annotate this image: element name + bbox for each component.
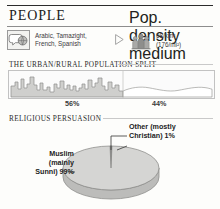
languages-line-1: Arabic, Tamazight, — [35, 32, 87, 39]
rural-percentage: 44% — [152, 99, 166, 108]
people-group-icon — [131, 31, 151, 50]
urban-rural-title-rule — [118, 64, 213, 65]
religion-pie-chart: Other (mostly Christian) 1% Muslim (main… — [0, 120, 220, 209]
speech-bubble-icon — [7, 30, 30, 50]
facts-row: Arabic, Tamazight, French, Spanish — [7, 30, 213, 56]
fact-languages: Arabic, Tamazight, French, Spanish — [7, 30, 87, 50]
urban-rural-legend: 56% 44% — [8, 98, 213, 110]
languages-text: Arabic, Tamazight, French, Spanish — [35, 32, 87, 48]
pie-label-other-line-2: Christian) 1% — [129, 131, 175, 140]
urban-rural-chart — [8, 70, 215, 99]
pie-label-muslim: Muslim (mainly Sunni) 99% — [14, 149, 74, 177]
header-rule-top — [7, 5, 213, 6]
pie-label-muslim-line-2: (mainly — [49, 158, 74, 167]
fact-density: 68/km² (176/mi²) — [131, 31, 181, 50]
pie-label-muslim-line-1: Muslim — [49, 149, 74, 158]
pie-label-muslim-line-3: Sunni) 99% — [35, 167, 74, 176]
pie-label-other-line-1: Other (mostly — [129, 122, 176, 131]
religion-title-rule — [103, 118, 213, 119]
page-title: PEOPLE — [9, 8, 66, 24]
urban-percentage: 56% — [65, 99, 79, 108]
languages-line-2: French, Spanish — [35, 40, 87, 48]
panel-header: PEOPLE Pop. density medium — [7, 5, 213, 27]
density-text: 68/km² (176/mi²) — [156, 32, 181, 48]
pie-label-other: Other (mostly Christian) 1% — [129, 122, 176, 140]
density-line-1: 68/km² — [156, 32, 175, 39]
density-line-2: (176/mi²) — [156, 41, 181, 49]
people-infographic-panel: PEOPLE Pop. density medium Arabic, Tamaz… — [0, 0, 220, 209]
